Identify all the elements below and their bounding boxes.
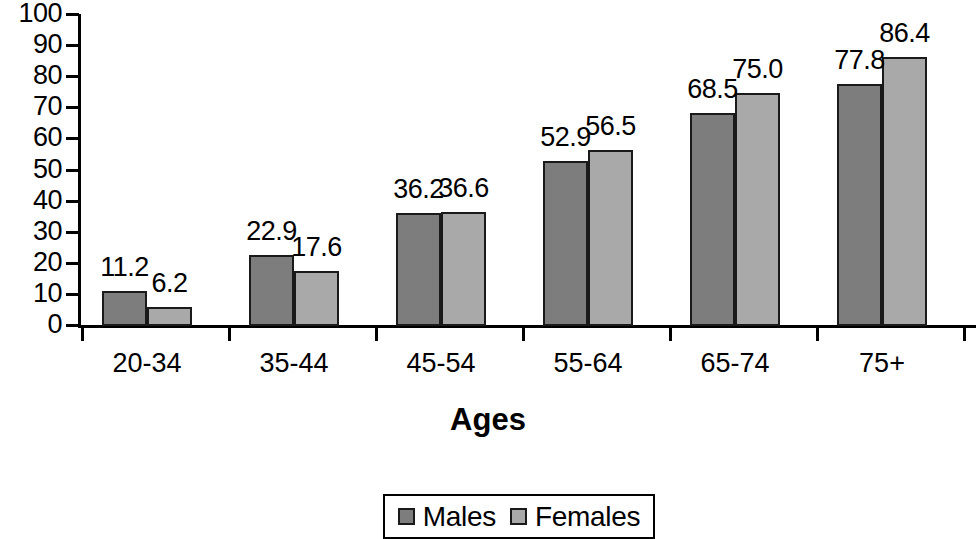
y-axis-tick	[66, 293, 79, 296]
x-axis-tick	[522, 328, 525, 341]
bar-value-label: 6.2	[151, 270, 187, 297]
y-axis-tick	[66, 106, 79, 109]
y-axis-tick	[66, 44, 79, 47]
bar-value-label: 11.2	[100, 254, 149, 281]
y-axis-tick-label: 20	[0, 249, 62, 276]
y-axis-tick-label: 80	[0, 62, 62, 89]
bar-females-35-44	[294, 271, 339, 326]
legend-label: Males	[423, 503, 496, 531]
bar-value-label: 36.6	[438, 175, 489, 202]
y-axis-tick-label: 10	[0, 280, 62, 307]
grouped-bar-chart: 1009080706050403020100 11.26.222.917.636…	[0, 0, 976, 539]
x-axis-tick	[228, 328, 231, 341]
bar-value-label: 17.6	[291, 234, 342, 261]
bar-males-75+	[837, 84, 882, 326]
bar-value-label: 56.5	[585, 113, 636, 140]
legend-swatch-icon	[398, 508, 415, 525]
y-axis-tick-label: 0	[0, 311, 62, 338]
bar-value-label: 75.0	[732, 56, 783, 83]
y-axis-tick-label: 70	[0, 93, 62, 120]
y-axis-tick-label: 40	[0, 187, 62, 214]
bar-males-55-64	[543, 161, 588, 326]
bar-value-label: 52.9	[540, 124, 591, 151]
legend-entry-males: Males	[398, 503, 496, 531]
y-axis-tick	[66, 200, 79, 203]
y-axis-tick	[66, 13, 79, 16]
bar-males-45-54	[396, 213, 441, 326]
plot-area: 1009080706050403020100 11.26.222.917.636…	[0, 0, 976, 340]
bar-value-label: 77.8	[834, 47, 885, 74]
legend-entry-females: Females	[510, 503, 640, 531]
y-axis-tick	[66, 324, 79, 327]
y-axis-tick	[66, 137, 79, 140]
y-axis-tick	[66, 231, 79, 234]
bar-value-label: 86.4	[879, 20, 930, 47]
legend-swatch-icon	[510, 508, 527, 525]
y-axis-tick	[66, 169, 79, 172]
y-axis-tick-label: 60	[0, 124, 62, 151]
x-axis-category-label: 55-64	[553, 348, 622, 378]
y-axis-tick	[66, 75, 79, 78]
x-axis-tick	[375, 328, 378, 341]
legend-label: Females	[535, 503, 640, 531]
bar-males-65-74	[690, 113, 735, 326]
bar-males-35-44	[249, 255, 294, 326]
x-axis-category-label: 65-74	[700, 348, 769, 378]
y-axis-tick-label: 90	[0, 31, 62, 58]
x-axis-category-label: 45-54	[406, 348, 475, 378]
chart-legend: MalesFemales	[383, 494, 655, 539]
bar-value-label: 68.5	[687, 76, 738, 103]
x-axis-tick	[963, 328, 966, 341]
x-axis-category-label: 20-34	[112, 348, 181, 378]
bar-value-label: 22.9	[246, 218, 297, 245]
y-axis-tick-label: 100	[0, 0, 62, 27]
bar-females-55-64	[588, 150, 633, 326]
y-axis-tick-label: 50	[0, 156, 62, 183]
bar-females-20-34	[147, 307, 192, 326]
bar-females-45-54	[441, 212, 486, 326]
bar-females-75+	[882, 57, 927, 326]
bar-value-label: 36.2	[393, 176, 444, 203]
x-axis-tick	[816, 328, 819, 341]
x-axis-category-label: 75+	[859, 348, 905, 378]
y-axis-tick	[66, 262, 79, 265]
x-axis-category-label: 35-44	[259, 348, 328, 378]
x-axis-tick	[669, 328, 672, 341]
bar-females-65-74	[735, 93, 780, 326]
y-axis-tick-label: 30	[0, 218, 62, 245]
x-axis-tick	[81, 328, 84, 341]
bar-males-20-34	[102, 291, 147, 326]
x-axis-title: Ages	[0, 403, 976, 437]
